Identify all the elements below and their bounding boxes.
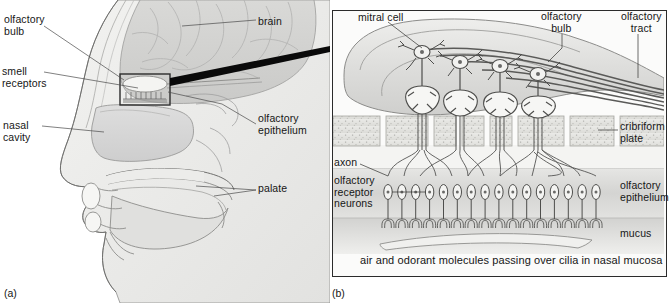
label-mitral-cell: mitral cell bbox=[358, 12, 403, 24]
label-olfactory-bulb-a: olfactory bulb bbox=[4, 14, 45, 37]
lower-lip bbox=[85, 212, 101, 232]
sagittal-head-illustration bbox=[0, 0, 330, 303]
label-olfactory-epithelium-b: olfactory epithelium bbox=[620, 180, 669, 203]
label-olfactory-epithelium-a: olfactory epithelium bbox=[258, 113, 307, 136]
label-palate: palate bbox=[258, 183, 287, 195]
label-mucus: mucus bbox=[620, 228, 651, 240]
panel-a-sagittal-head: olfactory bulb smell receptors nasal cav… bbox=[0, 0, 330, 303]
label-smell-receptors: smell receptors bbox=[2, 66, 47, 89]
label-brain: brain bbox=[258, 16, 282, 28]
upper-lip bbox=[82, 183, 100, 209]
lamina-propria-layer bbox=[333, 145, 664, 168]
panel-tag-a: (a) bbox=[4, 287, 17, 299]
label-axon: axon bbox=[334, 157, 357, 169]
label-olfactory-receptor-neurons: olfactory receptor neurons bbox=[334, 175, 375, 210]
label-olfactory-bulb-b: olfactory bulb bbox=[541, 11, 582, 34]
label-nasal-cavity: nasal cavity bbox=[3, 120, 30, 143]
panel-tag-b: (b) bbox=[332, 287, 345, 299]
panel-b-caption: air and odorant molecules passing over c… bbox=[360, 255, 663, 267]
nasal-cavity-region bbox=[92, 105, 194, 162]
label-olfactory-tract: olfactory tract bbox=[621, 11, 662, 34]
panel-b-olfactory-detail: mitral cell olfactory bulb olfactory tra… bbox=[330, 0, 669, 303]
label-cribriform-plate: cribriform plate bbox=[620, 121, 665, 144]
